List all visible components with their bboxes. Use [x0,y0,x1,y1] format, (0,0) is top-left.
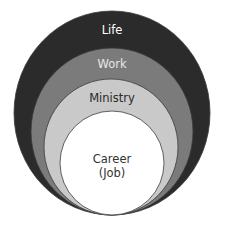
nested-circles-diagram: Life Work Ministry Career (Job) [0,0,225,229]
career-sublabel: (Job) [99,166,126,180]
career-label: Career [93,152,132,166]
ministry-label: Ministry [89,91,135,105]
life-label: Life [102,23,123,37]
work-label: Work [97,57,126,71]
